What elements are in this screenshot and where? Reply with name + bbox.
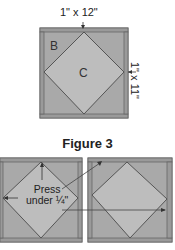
top-block: B C [40, 22, 136, 118]
piece-c-label: C [79, 66, 88, 80]
press-line-2: under ¼" [26, 195, 68, 206]
piece-b-label: B [50, 39, 58, 53]
top-dimension-label: 1" x 12" [60, 6, 98, 18]
press-instruction: Press under ¼" [26, 184, 68, 206]
side-dimension-label: 1" x 11" [129, 62, 141, 99]
quilt-diagram: B C [0, 0, 175, 250]
figure-caption: Figure 3 [0, 136, 175, 151]
